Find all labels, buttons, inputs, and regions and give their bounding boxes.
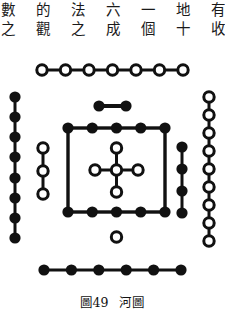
group-south-two-yin <box>93 100 131 111</box>
group-east-eight-yin <box>9 91 20 243</box>
group-north-one-yang <box>111 232 121 242</box>
page-text-block: 數 的 法 六 一 地 有 有 ， 特 之 觀 之 成 個 十 收 發 必 之 <box>0 0 225 42</box>
page-text-line-1: 數 的 法 六 一 地 有 有 ， 特 <box>0 1 225 20</box>
page-text-line-2: 之 觀 之 成 個 十 收 發 必 之 <box>0 20 225 39</box>
figure-caption-number: 圖49 <box>80 295 109 310</box>
figure-caption: 圖49河圖 <box>0 295 225 311</box>
group-east-three-yang <box>38 143 48 199</box>
group-west-four-yin <box>176 141 187 218</box>
group-west-nine-yang <box>204 92 214 246</box>
group-south-seven-yang <box>37 65 188 75</box>
group-north-six-yin <box>38 264 186 275</box>
figure-caption-title: 河圖 <box>119 295 145 310</box>
hetu-svg <box>0 44 225 292</box>
hetu-diagram <box>0 44 225 292</box>
group-center-five-yang <box>90 143 143 197</box>
